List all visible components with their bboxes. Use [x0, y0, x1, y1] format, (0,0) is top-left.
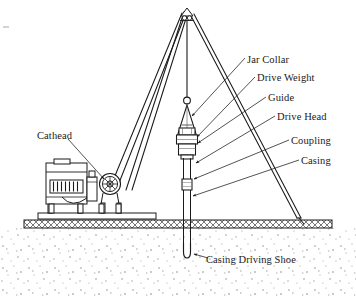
- diagram-svg: [0, 0, 356, 296]
- leader-drive-weight: [197, 77, 255, 137]
- figure-canvas: Jar Collar Drive Weight Guide Drive Head…: [0, 0, 356, 296]
- drive-weight: [177, 128, 198, 144]
- cathead: [99, 174, 121, 214]
- leader-guide: [198, 97, 266, 143]
- leader-drive-head: [196, 116, 275, 163]
- leader-coupling: [194, 140, 289, 179]
- label-casing-driving-shoe: Casing Driving Shoe: [206, 255, 296, 266]
- drive-head: [179, 144, 196, 159]
- skid-base: [38, 203, 156, 219]
- leader-jar-collar: [192, 58, 245, 116]
- derrick-apex-sheave: [180, 8, 194, 21]
- label-jar-collar: Jar Collar: [247, 55, 289, 66]
- engine-cylinder: [87, 171, 97, 201]
- label-guide: Guide: [268, 93, 294, 104]
- casing-driving-shoe: [184, 243, 191, 258]
- label-coupling: Coupling: [291, 136, 331, 147]
- engine: [46, 159, 87, 213]
- coupling: [182, 179, 192, 190]
- tripod-derrick: [110, 12, 304, 224]
- ground-line: [24, 220, 332, 228]
- label-cathead: Cathead: [37, 131, 72, 142]
- soil-region: [0, 228, 356, 296]
- label-drive-head: Drive Head: [277, 112, 327, 123]
- jar-collar: [184, 97, 191, 104]
- label-casing: Casing: [301, 156, 331, 167]
- label-drive-weight: Drive Weight: [257, 73, 315, 84]
